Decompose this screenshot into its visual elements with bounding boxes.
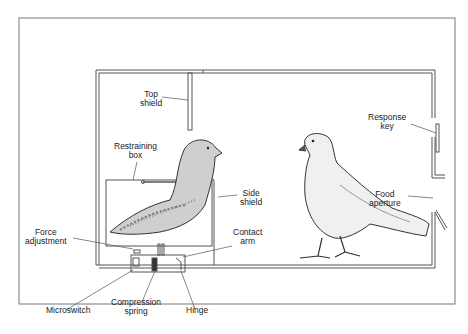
chamber-diagram (0, 0, 468, 334)
label-contact-arm: Contact arm (233, 228, 262, 246)
label-top-shield: Top shield (140, 90, 162, 108)
label-side-shield: Side shield (240, 189, 262, 207)
label-microswitch: Microswitch (46, 306, 90, 315)
free-pigeon-illustration (299, 134, 429, 258)
label-restraining-box: Restraining box (114, 142, 157, 160)
response-key (436, 124, 439, 152)
label-food-aperture: Food aperture (369, 190, 401, 208)
label-force-adjustment: Force adjustment (25, 228, 67, 246)
label-hinge: Hinge (186, 306, 208, 315)
outer-frame (19, 18, 455, 304)
label-response-key: Response key (368, 113, 406, 131)
label-compression-spring: Compression spring (111, 298, 161, 316)
top-shield (188, 73, 192, 130)
